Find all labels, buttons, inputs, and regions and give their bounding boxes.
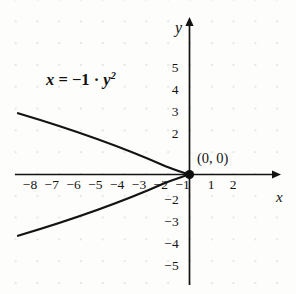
y-tick-label: −4	[161, 237, 182, 251]
x-axis-label: x	[276, 190, 283, 205]
x-tick-label: 2	[226, 178, 240, 192]
x-tick-label: −1	[174, 178, 192, 192]
equation-exponent: 2	[111, 70, 116, 81]
y-tick-label: 4	[168, 83, 182, 97]
x-tick-label: −8	[21, 178, 39, 192]
y-tick-label: −2	[161, 193, 182, 207]
x-tick-label: −6	[65, 178, 83, 192]
equation-lhs: x	[46, 70, 54, 89]
x-tick-label: −5	[86, 178, 104, 192]
y-axis	[185, 17, 193, 285]
coordinate-plane	[0, 0, 296, 294]
y-axis-arrowhead	[185, 17, 193, 26]
equation-dot: ·	[90, 70, 104, 89]
y-tick-label: 2	[168, 127, 182, 141]
x-tick-label: −2	[152, 178, 170, 192]
equation-variable: y	[103, 70, 110, 89]
origin-coordinate-label: (0, 0)	[197, 151, 228, 166]
equation-coefficient: −1	[72, 70, 90, 89]
x-tick-label: 1	[204, 178, 218, 192]
equation-annotation: x = −1 · y2	[46, 72, 116, 89]
x-tick-label: −4	[108, 178, 126, 192]
parabola-figure: x = −1 · y2 (0, 0) y x −8 −7 −6 −5 −4 −3…	[0, 0, 296, 294]
x-tick-label: −3	[130, 178, 148, 192]
y-tick-label: 5	[168, 61, 182, 75]
y-tick-label: 3	[168, 105, 182, 119]
x-tick-label: −7	[43, 178, 61, 192]
y-tick-label: −5	[161, 259, 182, 273]
x-axis-arrowhead	[272, 170, 281, 178]
equation-equals: =	[54, 70, 72, 89]
y-tick-label: −3	[161, 215, 182, 229]
y-axis-label: y	[175, 20, 182, 36]
